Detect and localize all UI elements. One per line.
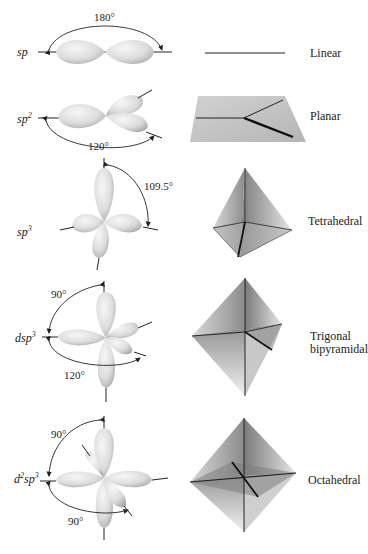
hybridization-label-dsp3: dsp3	[15, 328, 36, 345]
sp-orbital-figure	[38, 26, 172, 64]
trigonal-bipyramidal-geometry-figure	[192, 278, 282, 396]
hybridization-label-sp: sp	[17, 46, 28, 59]
geometry-label-planar: Planar	[310, 110, 341, 123]
octahedral-geometry-figure	[190, 418, 296, 532]
angle-label-90-upper: 90°	[51, 288, 66, 301]
angle-label-90-upper-oct: 90°	[51, 428, 66, 441]
hybridization-label-d2sp3: d2sp3	[14, 469, 39, 486]
angle-label-120: 120°	[88, 140, 109, 153]
hybridization-label-sp2: sp2	[17, 109, 32, 126]
geometry-label-tetrahedral: Tetrahedral	[308, 215, 362, 228]
sp3-orbital-figure	[60, 158, 158, 270]
angle-label-120-lower: 120°	[64, 369, 85, 382]
geometry-label-linear: Linear	[310, 47, 341, 60]
geometry-label-trigonal-bipyramidal: Trigonal bipyramidal	[310, 330, 368, 356]
planar-geometry-figure	[190, 96, 306, 142]
geometry-label-octahedral: Octahedral	[308, 474, 361, 487]
geometry-label-line-2: bipyramidal	[310, 343, 368, 356]
angle-label-109-5: 109.5°	[144, 180, 173, 193]
hybridization-label-sp3: sp3	[17, 222, 32, 239]
tetrahedral-geometry-figure	[213, 168, 292, 257]
angle-label-90-lower-oct: 90°	[68, 515, 83, 528]
angle-label-180: 180°	[94, 11, 115, 24]
